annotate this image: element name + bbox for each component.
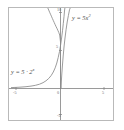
curve-label-exponential-base: y = 5 · 2 (11, 68, 33, 75)
y-tick-label-5: 5 (56, 45, 58, 49)
x-tick-label-neg5: -5 (13, 91, 17, 95)
plot-area (0, 0, 124, 130)
curve-label-exponential-exponent: x (33, 67, 35, 72)
graph-figure: y = 5x2 y = 5 · 2x -5 0 5 10 5 -5 (0, 0, 124, 130)
y-tick-label-10: 10 (57, 8, 61, 12)
x-tick-label-5: 5 (102, 91, 104, 95)
curve-label-parabola-exponent: 2 (88, 13, 90, 18)
x-tick-label-0: 0 (57, 91, 59, 95)
curve-label-exponential: y = 5 · 2x (11, 68, 34, 76)
y-tick-label-neg5: -5 (57, 114, 61, 118)
curve-label-parabola-base: y = 5x (72, 14, 88, 21)
curve-label-parabola: y = 5x2 (72, 14, 91, 22)
